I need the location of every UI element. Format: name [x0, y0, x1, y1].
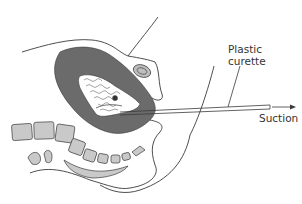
label-plastic: Plastic	[228, 43, 262, 55]
curette-leader-line	[228, 66, 240, 107]
label-curette: curette	[228, 55, 266, 67]
label-suction: Suction	[259, 112, 298, 124]
suction-curettage-diagram	[0, 0, 302, 204]
anterior-abdomen-line	[128, 17, 158, 56]
suction-arrow-icon	[272, 105, 296, 110]
